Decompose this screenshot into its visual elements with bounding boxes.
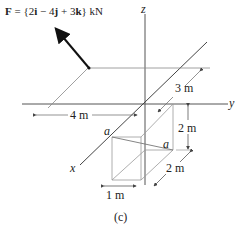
- force-application-point: [88, 67, 91, 70]
- dim-1m-label: 1 m: [106, 189, 124, 201]
- point-a-right-label: a: [163, 138, 169, 150]
- y-axis-label: y: [229, 97, 234, 109]
- x-axis-label: x: [70, 162, 75, 174]
- z-axis-label: z: [141, 3, 146, 15]
- dim-4m-label: 4 m: [70, 109, 88, 121]
- box-bottom-left-depth: [112, 150, 145, 180]
- statics-diagram: F = {2i − 4j + 3k} kN z y x 4 m 3 m 2 m …: [0, 0, 240, 233]
- plane-left-edge: [48, 68, 88, 108]
- dim-3m-label: 3 m: [175, 82, 193, 94]
- dim-2m-depth-label: 2 m: [166, 162, 184, 174]
- force-arrow: [57, 30, 89, 68]
- force-vector-label: F = {2i − 4j + 3k} kN: [5, 6, 103, 17]
- box-top-right: [141, 104, 173, 137]
- point-a-left-label: a: [104, 125, 110, 137]
- dim-2m-vertical-label: 2 m: [178, 122, 196, 134]
- figure-caption: (c): [114, 211, 127, 223]
